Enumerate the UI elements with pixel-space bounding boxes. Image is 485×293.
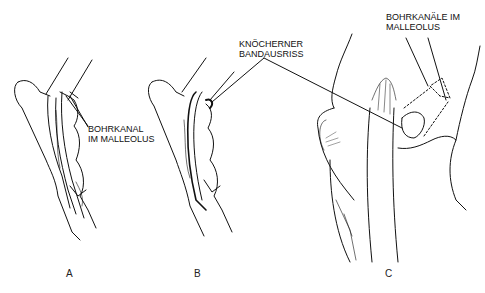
figure-canvas: BOHRKANAL IM MALLEOLUS KNÖCHERNER BANDAU…: [0, 0, 485, 293]
panel-b-drawing: [148, 58, 234, 236]
label-knoecherner-bandausriss: KNÖCHERNER BANDAUSRISS: [239, 39, 304, 59]
label-line: KNÖCHERNER: [239, 39, 304, 49]
panel-letter-b: B: [194, 268, 201, 279]
leader-line-c1: [406, 38, 428, 86]
panel-letter-c: C: [385, 268, 392, 279]
leader-line-a: [70, 96, 88, 127]
panel-a-drawing: [15, 58, 96, 240]
label-line: BANDAUSRISS: [239, 49, 304, 59]
label-line: BOHRKANÄLE IM: [386, 12, 460, 22]
label-bohrkanaele: BOHRKANÄLE IM MALLEOLUS: [386, 12, 460, 32]
label-line: BOHRKANAL: [88, 124, 155, 134]
leader-line-b: [212, 58, 264, 102]
label-bohrkanal: BOHRKANAL IM MALLEOLUS: [88, 124, 155, 144]
leader-line-c2: [428, 38, 446, 100]
panel-c-drawing: [318, 34, 480, 262]
label-line: MALLEOLUS: [386, 22, 460, 32]
leader-line-c-bandausriss: [264, 58, 402, 128]
label-line: IM MALLEOLUS: [88, 134, 155, 144]
panel-letter-a: A: [66, 268, 73, 279]
